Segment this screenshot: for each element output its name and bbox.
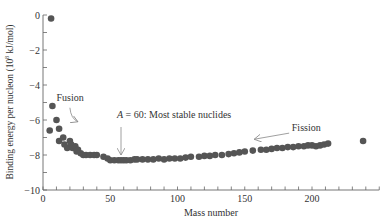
x-tick-label: 200 bbox=[305, 193, 320, 204]
data-point bbox=[360, 138, 367, 145]
data-point bbox=[242, 148, 249, 155]
y-tick-label: −4 bbox=[29, 80, 40, 91]
y-tick-label: −6 bbox=[29, 115, 40, 126]
data-point bbox=[48, 15, 55, 22]
data-points bbox=[46, 15, 366, 163]
y-tick-label: −8 bbox=[29, 150, 40, 161]
annotation-label: Fission bbox=[292, 122, 321, 133]
data-point bbox=[250, 147, 257, 154]
data-point bbox=[46, 127, 53, 134]
data-point bbox=[94, 152, 101, 159]
annotation-label: Fusion bbox=[56, 92, 83, 103]
annotation-arrow-icon bbox=[254, 133, 289, 139]
x-axis-label: Mass number bbox=[184, 207, 239, 218]
fusion-annotation: Fusion bbox=[56, 92, 83, 122]
data-point bbox=[325, 140, 332, 147]
stable-nuclides-annotation: A = 60: Most stable nuclides bbox=[116, 109, 231, 155]
annotation-arrow-icon bbox=[70, 108, 78, 122]
y-tick-label: 0 bbox=[35, 10, 40, 21]
axes: 0−2−4−6−8−10050100150200 bbox=[24, 10, 379, 205]
data-point bbox=[212, 152, 219, 159]
data-point bbox=[49, 103, 56, 110]
binding-energy-chart: 0−2−4−6−8−10050100150200 FusionA = 60: M… bbox=[0, 0, 384, 222]
x-tick-label: 100 bbox=[170, 193, 185, 204]
y-tick-label: −10 bbox=[24, 185, 40, 196]
data-point bbox=[188, 154, 195, 161]
y-tick-label: −2 bbox=[29, 45, 40, 56]
data-point bbox=[60, 134, 67, 141]
x-tick-label: 50 bbox=[105, 193, 115, 204]
data-point bbox=[53, 117, 60, 124]
x-tick-label: 0 bbox=[41, 193, 46, 204]
y-axis-label: Binding energy per nucleon (108 kJ/mol) bbox=[4, 24, 16, 179]
chart-canvas: 0−2−4−6−8−10050100150200 FusionA = 60: M… bbox=[0, 0, 384, 222]
annotation-label: A = 60: Most stable nuclides bbox=[116, 109, 231, 120]
fission-annotation: Fission bbox=[254, 122, 321, 140]
x-tick-label: 150 bbox=[237, 193, 252, 204]
data-point bbox=[56, 126, 63, 133]
data-point bbox=[219, 152, 226, 159]
